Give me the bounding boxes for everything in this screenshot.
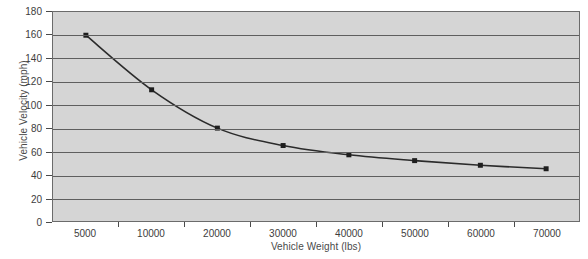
x-axis-title: Vehicle Weight (lbs) [52,241,580,252]
y-axis-tick-mark [46,175,52,176]
y-axis-tick-label: 100 [8,99,42,110]
x-axis-tick-label: 20000 [203,228,231,239]
plot-area [52,11,580,222]
y-axis-tick-mark [46,128,52,129]
y-axis-tick-label: 140 [8,52,42,63]
data-point-marker [281,143,286,148]
x-axis-tick-mark [382,222,383,227]
y-axis-tick-label: 20 [8,193,42,204]
y-axis-tick-mark [46,11,52,12]
series-line-group [53,12,579,221]
vehicle-velocity-vs-weight-chart: Vehicle Velocity (mph) 02040608010012014… [0,0,588,259]
x-axis-tick-label: 60000 [467,228,495,239]
x-axis-tick-label: 40000 [335,228,363,239]
gridline [53,199,579,200]
data-point-marker [478,163,483,168]
x-axis-tick-label: 10000 [137,228,165,239]
y-axis-tick-label: 120 [8,76,42,87]
y-axis-tick-mark [46,152,52,153]
gridline [53,105,579,106]
x-axis-tick-labels: 500010000200003000040000500006000070000 [52,228,580,242]
y-axis-tick-mark [46,222,52,223]
y-axis-tick-label: 180 [8,6,42,17]
x-axis-tick-mark [514,222,515,227]
x-axis-tick-label: 50000 [401,228,429,239]
x-axis-tick-label: 70000 [533,228,561,239]
y-axis-tick-label: 60 [8,146,42,157]
x-axis-tick-mark [316,222,317,227]
x-axis-tick-mark [184,222,185,227]
x-axis-tick-mark [118,222,119,227]
y-axis-tick-label: 160 [8,29,42,40]
data-point-marker [412,158,417,163]
y-axis-tick-mark [46,105,52,106]
data-point-marker [149,87,154,92]
x-axis-tick-label: 30000 [269,228,297,239]
y-axis-tick-mark [46,199,52,200]
y-axis-tick-mark [46,81,52,82]
gridline [53,129,579,130]
x-axis-tick-mark [250,222,251,227]
y-axis-tick-label: 40 [8,170,42,181]
gridline [53,176,579,177]
gridline [53,35,579,36]
y-axis-tick-label: 0 [8,217,42,228]
gridline [53,152,579,153]
y-axis-tick-labels: 020406080100120140160180 [8,11,42,222]
gridline [53,82,579,83]
x-axis-tick-label: 5000 [74,228,96,239]
y-axis-tick-label: 80 [8,123,42,134]
data-point-marker [544,166,549,171]
x-axis-tick-mark [448,222,449,227]
y-axis-tick-mark [46,58,52,59]
gridline [53,58,579,59]
series-line [86,35,546,169]
y-axis-tick-mark [46,34,52,35]
